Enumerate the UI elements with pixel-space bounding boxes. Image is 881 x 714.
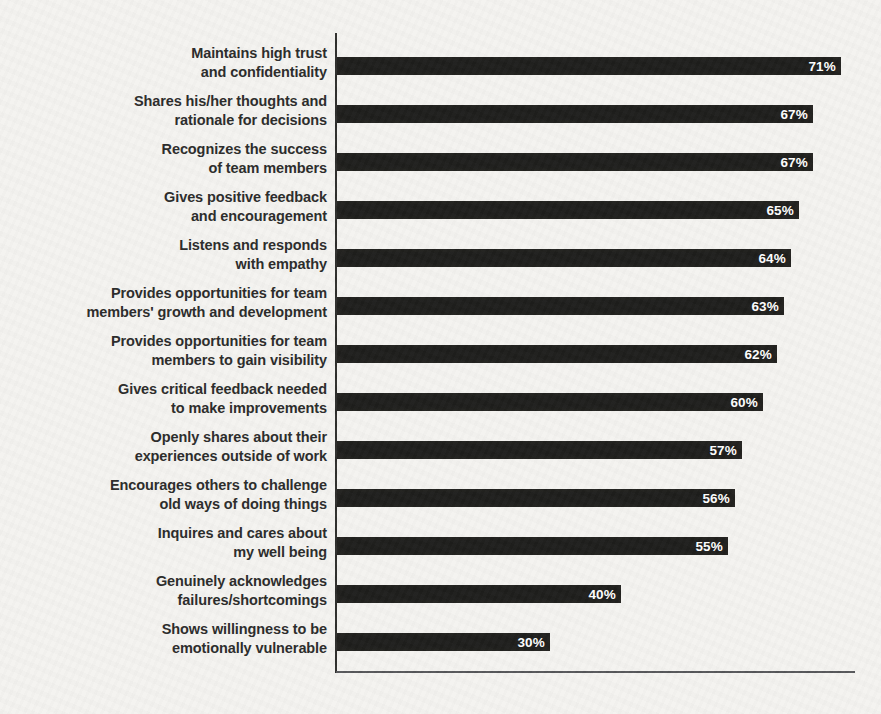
bar-value-label: 63% (751, 299, 784, 314)
bar: 65% (337, 201, 799, 219)
bar-chart: Maintains high trust and confidentiality… (0, 0, 881, 714)
bar-value-label: 67% (780, 155, 813, 170)
category-label: Shows willingness to be emotionally vuln… (0, 620, 337, 658)
chart-row: Genuinely acknowledges failures/shortcom… (0, 570, 881, 618)
category-label: Genuinely acknowledges failures/shortcom… (0, 572, 337, 610)
bar-value-label: 55% (695, 539, 728, 554)
category-label: Encourages others to challenge old ways … (0, 476, 337, 514)
chart-row: Provides opportunities for team members'… (0, 282, 881, 330)
chart-row: Encourages others to challenge old ways … (0, 474, 881, 522)
bar: 67% (337, 105, 813, 123)
category-label: Recognizes the success of team members (0, 140, 337, 178)
category-label: Provides opportunities for team members'… (0, 284, 337, 322)
bar: 57% (337, 441, 742, 459)
chart-row: Inquires and cares about my well being55… (0, 522, 881, 570)
category-label: Gives positive feedback and encouragemen… (0, 188, 337, 226)
x-axis-line (336, 671, 855, 673)
bar: 63% (337, 297, 784, 315)
bar-value-label: 30% (517, 635, 550, 650)
bar-value-label: 62% (744, 347, 777, 362)
chart-row: Shares his/her thoughts and rationale fo… (0, 90, 881, 138)
chart-row: Provides opportunities for team members … (0, 330, 881, 378)
chart-rows: Maintains high trust and confidentiality… (0, 42, 881, 666)
bar-value-label: 65% (766, 203, 799, 218)
bar: 64% (337, 249, 791, 267)
bar-value-label: 60% (730, 395, 763, 410)
category-label: Provides opportunities for team members … (0, 332, 337, 370)
chart-row: Shows willingness to be emotionally vuln… (0, 618, 881, 666)
chart-row: Gives critical feedback needed to make i… (0, 378, 881, 426)
bar-value-label: 56% (702, 491, 735, 506)
bar: 71% (337, 57, 841, 75)
bar: 60% (337, 393, 763, 411)
category-label: Openly shares about their experiences ou… (0, 428, 337, 466)
chart-row: Listens and responds with empathy64% (0, 234, 881, 282)
category-label: Maintains high trust and confidentiality (0, 44, 337, 82)
bar: 56% (337, 489, 735, 507)
category-label: Shares his/her thoughts and rationale fo… (0, 92, 337, 130)
chart-row: Openly shares about their experiences ou… (0, 426, 881, 474)
chart-row: Maintains high trust and confidentiality… (0, 42, 881, 90)
chart-row: Gives positive feedback and encouragemen… (0, 186, 881, 234)
bar-value-label: 67% (780, 107, 813, 122)
bar: 55% (337, 537, 728, 555)
chart-row: Recognizes the success of team members67… (0, 138, 881, 186)
category-label: Listens and responds with empathy (0, 236, 337, 274)
bar-value-label: 57% (709, 443, 742, 458)
bar: 30% (337, 633, 550, 651)
bar-value-label: 71% (808, 59, 841, 74)
bar-value-label: 64% (758, 251, 791, 266)
bar: 62% (337, 345, 777, 363)
category-label: Inquires and cares about my well being (0, 524, 337, 562)
bar-value-label: 40% (588, 587, 621, 602)
category-label: Gives critical feedback needed to make i… (0, 380, 337, 418)
bar: 67% (337, 153, 813, 171)
bar: 40% (337, 585, 621, 603)
